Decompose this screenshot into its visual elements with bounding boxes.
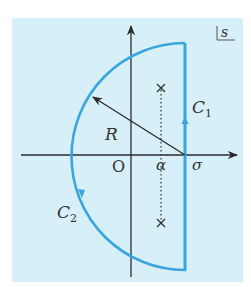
c2-label: C: [57, 202, 70, 222]
alpha-label: α: [156, 156, 166, 174]
plane-label: s: [221, 24, 228, 40]
origin-label: O: [112, 157, 125, 176]
radius-label: R: [104, 124, 118, 144]
c1-label: C: [192, 97, 205, 117]
sigma-label: σ: [192, 156, 203, 174]
c1-subscript: 1: [205, 107, 212, 120]
c2-subscript: 2: [70, 212, 77, 225]
s-plane-diagram: s R O α σ C 1 C 2: [0, 0, 251, 287]
